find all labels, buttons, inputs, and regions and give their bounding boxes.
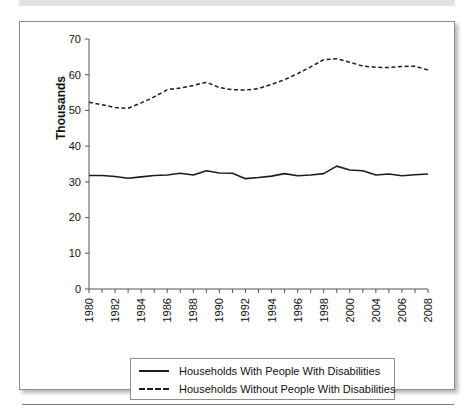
x-tick-label-2008: 2008 [422, 298, 434, 322]
x-tick-label-1992: 1992 [239, 298, 251, 322]
x-tick-label-2006: 2006 [396, 298, 408, 322]
legend-swatch-dashed-icon [137, 384, 171, 394]
chart-figure-frame: 010203040506070 198019821984198619881990… [19, 21, 455, 390]
y-axis-ticks [85, 39, 89, 289]
legend-swatch-solid-icon [137, 366, 171, 376]
y-tick-label-20: 20 [69, 211, 81, 223]
legend-item-with-disabilities: Households With People With Disabilities [137, 362, 388, 380]
x-tick-label-1986: 1986 [161, 298, 173, 322]
page-bottom-rule [22, 404, 454, 405]
legend-item-without-disabilities: Households Without People With Disabilit… [137, 380, 388, 398]
x-tick-label-2004: 2004 [370, 298, 382, 322]
y-axis-title: Thousands [54, 40, 72, 140]
legend-label-with-disabilities: Households With People With Disabilities [179, 365, 380, 377]
page-top-band [19, 0, 455, 6]
x-tick-label-2000: 2000 [344, 298, 356, 322]
chart-legend: Households With People With Disabilities… [130, 358, 395, 400]
series-without-disabilities-line [89, 59, 428, 109]
y-tick-label-30: 30 [69, 176, 81, 188]
x-axis-tick-labels: 1980198219841986198819901992199419961998… [83, 298, 434, 322]
series-with-disabilities-line [89, 166, 428, 179]
x-tick-label-1984: 1984 [135, 298, 147, 322]
x-tick-label-1998: 1998 [318, 298, 330, 322]
x-axis-ticks [89, 289, 428, 293]
x-tick-label-1996: 1996 [292, 298, 304, 322]
x-tick-label-1988: 1988 [187, 298, 199, 322]
x-tick-label-1994: 1994 [266, 298, 278, 322]
chart-plot-svg: 010203040506070 198019821984198619881990… [20, 22, 454, 389]
x-tick-label-1982: 1982 [109, 298, 121, 322]
legend-label-without-disabilities: Households Without People With Disabilit… [179, 383, 395, 395]
y-tick-label-40: 40 [69, 140, 81, 152]
x-tick-label-1980: 1980 [83, 298, 95, 322]
y-tick-label-10: 10 [69, 247, 81, 259]
x-tick-label-1990: 1990 [213, 298, 225, 322]
y-tick-label-0: 0 [75, 283, 81, 295]
